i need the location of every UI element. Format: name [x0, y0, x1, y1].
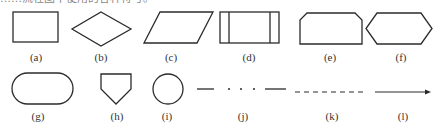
figure-e: (e) — [300, 13, 362, 64]
figure-label-j: (j) — [238, 110, 249, 123]
figure-label-h: (h) — [111, 110, 124, 123]
offpage-connector-shape — [101, 74, 131, 104]
figure-label-b: (b) — [95, 51, 108, 64]
figure-label-e: (e) — [324, 51, 337, 64]
parallelogram-io-shape — [144, 12, 213, 43]
connector-circle-shape — [153, 74, 183, 104]
figure-label-d: (d) — [243, 51, 256, 64]
figure-h: (h) — [101, 74, 131, 123]
hexagon-preparation-shape — [366, 13, 432, 44]
figure-b: (b) — [72, 12, 131, 64]
flowchart-symbols-diagram: (a) (b) (c) (d) (e) (f) (g) (h) (i) — [0, 0, 439, 129]
figure-c: (c) — [144, 12, 213, 64]
figure-g: (g) — [12, 73, 73, 123]
arrowhead-icon — [425, 90, 431, 95]
figure-label-l: (l) — [398, 110, 409, 123]
rectangle-process-shape — [13, 12, 58, 42]
figure-a: (a) — [13, 12, 58, 64]
chamfered-rectangle-shape — [300, 13, 362, 44]
figure-d: (d) — [220, 12, 279, 64]
figure-label-g: (g) — [32, 110, 45, 123]
figure-label-f: (f) — [396, 51, 407, 64]
diamond-decision-shape — [72, 12, 131, 46]
figure-j: (j) — [197, 89, 286, 123]
figure-l: (l) — [375, 90, 431, 124]
figure-label-i: (i) — [162, 110, 173, 123]
figure-label-k: (k) — [326, 110, 339, 123]
figure-label-c: (c) — [165, 51, 178, 64]
figure-k: (k) — [295, 92, 366, 123]
figure-f: (f) — [366, 13, 432, 64]
terminator-shape — [12, 73, 73, 104]
figure-i: (i) — [153, 74, 183, 123]
figure-label-a: (a) — [30, 51, 43, 64]
